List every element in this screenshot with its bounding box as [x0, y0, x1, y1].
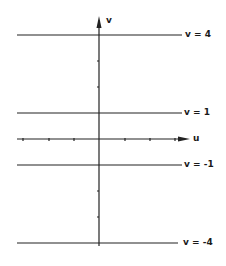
label-v-neg4: v = -4: [183, 237, 213, 247]
label-v-1: v = 1: [184, 107, 210, 117]
v-axis-label: v: [106, 15, 112, 25]
label-v-neg1: v = -1: [184, 159, 214, 169]
uv-plane-diagram: v u v = 4 v = 1 v = -1 v = -4: [0, 0, 226, 266]
label-v-4: v = 4: [185, 29, 211, 39]
u-axis-arrow-icon: [178, 137, 190, 142]
v-axis-arrow-icon: [97, 16, 102, 28]
u-axis-label: u: [193, 133, 199, 143]
